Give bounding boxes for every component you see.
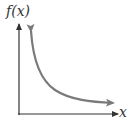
- y-axis-label: f(x): [6, 3, 30, 19]
- decay-curve: [31, 31, 113, 103]
- x-axis-label: x: [119, 104, 127, 120]
